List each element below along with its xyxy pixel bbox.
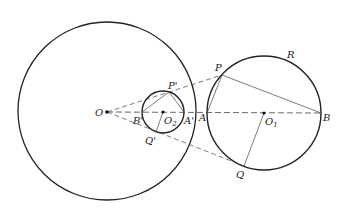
line-o1-q [244, 113, 264, 166]
label-p: P [214, 62, 222, 73]
label-o2: O2 [164, 115, 177, 128]
label-r: R [286, 49, 295, 60]
line-o2-qp [156, 112, 163, 132]
label-q-prime: Q' [145, 135, 156, 146]
label-q: Q [236, 169, 244, 180]
point-o [105, 110, 109, 114]
label-b: B [322, 112, 330, 123]
inversion-diagram: O O2 O1 P Q A B R P' Q' A' B' [0, 0, 345, 219]
line-pp-bp [142, 92, 169, 112]
axis-line [107, 112, 321, 113]
label-a: A [198, 112, 206, 123]
line-o-p [107, 75, 222, 112]
label-a-prime: A' [183, 115, 194, 126]
label-o1: O1 [265, 116, 278, 129]
line-p-a [207, 75, 222, 113]
line-p-b [222, 75, 321, 113]
label-o: O [95, 107, 103, 118]
label-b-prime: B' [132, 115, 143, 126]
point-o1 [262, 111, 265, 114]
point-o2 [161, 110, 164, 113]
label-p-prime: P' [167, 80, 177, 91]
